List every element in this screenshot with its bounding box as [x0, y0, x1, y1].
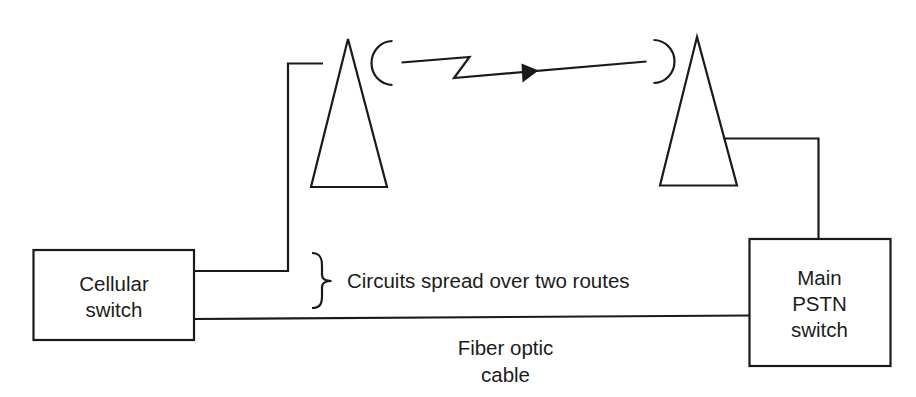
left-antenna-feed-line — [194, 64, 323, 272]
fiber-label-line1: Fiber optic — [458, 336, 554, 359]
main-pstn-switch-node: Main PSTN switch — [750, 239, 891, 366]
cellular-switch-box — [34, 250, 195, 340]
right-beam-arc-icon — [654, 40, 675, 83]
radio-direction-arrow-icon — [522, 64, 539, 83]
fiber-label-line2: cable — [481, 363, 530, 386]
pstn-switch-label-line2: PSTN — [792, 292, 847, 315]
right-antenna-feed-line — [724, 139, 819, 240]
left-antenna-tower-icon — [311, 39, 387, 187]
right-antenna-tower-icon — [660, 37, 737, 186]
diagram-canvas: Cellular switch Main PSTN switch Fiber o… — [0, 0, 916, 397]
circuits-spread-annotation: Circuits spread over two routes — [347, 269, 630, 292]
cellular-switch-label-line2: switch — [86, 298, 143, 321]
cellular-switch-node: Cellular switch — [34, 250, 195, 340]
left-beam-arc-icon — [372, 41, 393, 85]
pstn-switch-label-line1: Main — [797, 266, 841, 289]
fiber-optic-cable-line — [194, 316, 750, 320]
pstn-switch-label-line3: switch — [791, 318, 848, 341]
cellular-switch-label-line1: Cellular — [79, 272, 149, 295]
curly-brace-icon — [312, 253, 332, 308]
